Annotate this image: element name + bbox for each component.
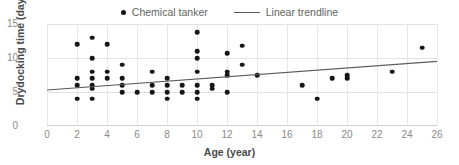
x-tick-label: 22 [371,129,382,141]
x-tick-label: 10 [191,129,202,141]
x-axis-ticks: 02468101214161820222426 [47,129,437,143]
legend-marker-line-icon [234,12,260,13]
legend-item-linear-trendline: Linear trendline [234,7,338,18]
x-tick-label: 0 [44,129,50,141]
x-tick-label: 8 [164,129,170,141]
y-axis-title: Drydocking time (day) [13,0,27,106]
x-tick-label: 14 [251,129,262,141]
y-tick-label: 0 [0,121,18,131]
legend-label-chemical-tanker: Chemical tanker [132,7,208,18]
x-tick-label: 6 [134,129,140,141]
chart-legend: Chemical tanker Linear trendline [0,2,459,22]
x-tick-label: 26 [431,129,442,141]
gridline-vertical [437,24,438,126]
x-tick-label: 16 [281,129,292,141]
linear-trendline [47,24,437,126]
x-tick-label: 20 [341,129,352,141]
legend-item-chemical-tanker: Chemical tanker [121,7,208,18]
x-tick-label: 4 [104,129,110,141]
x-tick-label: 12 [221,129,232,141]
legend-marker-dot-icon [121,10,126,15]
plot-area [47,24,437,126]
chart-figure: Chemical tanker Linear trendline Drydock… [0,0,459,165]
x-tick-label: 24 [401,129,412,141]
x-tick-label: 18 [311,129,322,141]
x-axis-title: Age (year) [0,145,459,159]
legend-label-linear-trendline: Linear trendline [266,7,338,18]
x-tick-label: 2 [74,129,80,141]
